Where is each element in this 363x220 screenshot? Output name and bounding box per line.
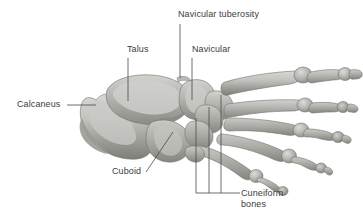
label-talus: Talus (127, 44, 149, 55)
label-cuboid: Cuboid (112, 166, 141, 177)
label-navicular-tuberosity: Navicular tuberosity (178, 9, 259, 20)
foot-skeleton-diagram: Navicular tuberosity Talus Navicular Cal… (0, 0, 363, 220)
distal-phalanx-3 (342, 135, 351, 143)
proximal-phalanx-1 (307, 70, 343, 83)
proximal-phalanx-2 (309, 102, 342, 113)
fifth-metatarsal-tuberosity (185, 146, 204, 162)
metatarsal-2 (224, 100, 303, 117)
proximal-phalanx-4 (291, 157, 318, 170)
metatarsal-3 (224, 118, 299, 135)
label-calcaneus: Calcaneus (17, 99, 60, 110)
proximal-phalanx-3 (303, 129, 335, 140)
label-cuneiform-line1: Cuneiform (241, 188, 283, 199)
distal-phalanx-4 (324, 167, 333, 175)
label-cuneiform-line2: bones (241, 199, 283, 210)
distal-phalanx-1 (349, 70, 362, 80)
foot-bones-illustration (0, 0, 363, 220)
distal-phalanx-2 (347, 104, 358, 112)
metatarsal-1 (221, 71, 301, 95)
label-navicular: Navicular (192, 44, 230, 55)
label-cuneiform-bones: Cuneiform bones (241, 188, 283, 210)
